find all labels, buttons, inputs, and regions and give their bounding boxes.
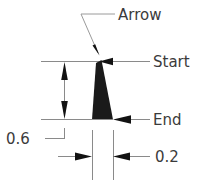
- arrow-leader-line: [81, 14, 115, 53]
- width-arrowhead-left-icon: [113, 152, 130, 160]
- start-label: Start: [153, 53, 190, 71]
- height-arrowhead-down-icon: [61, 101, 68, 119]
- height-arrowhead-up-icon: [61, 62, 68, 80]
- height-label-leader: [45, 128, 65, 139]
- width-dimension-group: 0.2: [58, 130, 179, 180]
- tapered-triangle-shape: [92, 60, 113, 120]
- start-reference-group: Start: [41, 53, 190, 71]
- width-dimension-label: 0.2: [155, 148, 179, 166]
- arrow-callout-group: Arrow: [81, 6, 161, 56]
- end-arrowhead-icon: [113, 115, 131, 123]
- end-label: End: [153, 111, 182, 129]
- arrow-leader-arrowhead-icon: [93, 44, 100, 55]
- width-arrowhead-right-icon: [75, 152, 92, 160]
- tapered-shape-group: [92, 60, 113, 120]
- arrow-dimension-diagram: Arrow Start End 0.6: [0, 0, 200, 182]
- height-dimension-group: 0.6: [6, 62, 68, 148]
- diagram-canvas: Arrow Start End 0.6: [0, 0, 200, 182]
- height-dimension-label: 0.6: [6, 130, 30, 148]
- arrow-label: Arrow: [118, 6, 161, 24]
